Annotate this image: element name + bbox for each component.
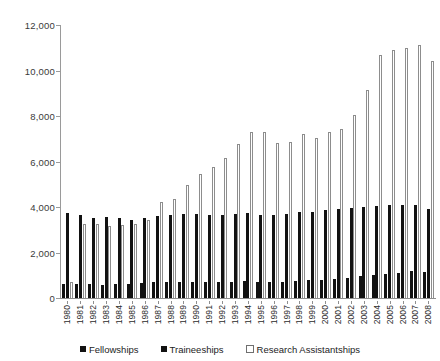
x-axis-tickmark <box>158 301 159 304</box>
x-axis-tick-label: 2005 <box>385 305 395 324</box>
x-axis-tickmark <box>338 301 339 304</box>
x-axis-tickmark <box>145 301 146 304</box>
bar-group <box>125 25 138 298</box>
bar-traineeships <box>298 212 301 298</box>
y-axis-tick-label: 8,000 <box>30 111 55 122</box>
bar-groups <box>61 25 435 298</box>
bar-research-assistantships <box>276 143 279 298</box>
bar-traineeships <box>324 210 327 298</box>
bar-fellowships <box>62 284 65 298</box>
bar-group <box>409 25 422 298</box>
bar-research-assistantships <box>134 224 137 298</box>
bar-traineeships <box>118 218 121 298</box>
bar-traineeships <box>221 215 224 298</box>
x-axis-tick-label: 1991 <box>204 305 214 324</box>
x-axis-label-cell: 2003 <box>357 301 370 341</box>
bar-traineeships <box>362 207 365 298</box>
bar-traineeships <box>414 205 417 298</box>
bar-research-assistantships <box>302 134 305 298</box>
y-axis-tick-label: 12,000 <box>25 20 55 31</box>
bar-group <box>293 25 306 298</box>
bar-fellowships <box>320 280 323 298</box>
x-axis-tick-label: 1980 <box>62 305 72 324</box>
x-axis-label-cell: 1985 <box>125 301 138 341</box>
x-axis-tick-label: 1989 <box>178 305 188 324</box>
bar-fellowships <box>410 271 413 298</box>
x-axis-tick-label: 2001 <box>333 305 343 324</box>
bar-fellowships <box>268 282 271 298</box>
bar-group <box>216 25 229 298</box>
bar-research-assistantships <box>160 202 163 298</box>
bar-traineeships <box>246 213 249 298</box>
bar-fellowships <box>204 282 207 298</box>
legend-item[interactable]: Fellowships <box>80 344 139 355</box>
x-axis-tick-label: 2004 <box>372 305 382 324</box>
x-axis-label-cell: 1981 <box>74 301 87 341</box>
bar-fellowships <box>294 281 297 298</box>
bar-research-assistantships <box>186 185 189 298</box>
bar-research-assistantships <box>224 158 227 298</box>
x-axis-tick-label: 1998 <box>294 305 304 324</box>
bar-traineeships <box>401 205 404 298</box>
x-axis-labels: 1980198119821983198419851986198719881989… <box>61 301 435 341</box>
bar-group <box>345 25 358 298</box>
x-axis-tickmark <box>428 301 429 304</box>
bar-traineeships <box>156 216 159 298</box>
x-axis-tickmark <box>299 301 300 304</box>
bar-fellowships <box>140 283 143 298</box>
x-axis-tickmark <box>235 301 236 304</box>
x-axis-tickmark <box>196 301 197 304</box>
bar-research-assistantships <box>353 115 356 298</box>
bar-group <box>319 25 332 298</box>
legend-item[interactable]: Research Assistantships <box>246 344 361 355</box>
x-axis-tickmark <box>415 301 416 304</box>
y-axis-tick-label: 0 <box>50 293 55 304</box>
bar-group <box>203 25 216 298</box>
bar-fellowships <box>307 280 310 298</box>
bar-traineeships <box>285 214 288 298</box>
x-axis-label-cell: 1986 <box>138 301 151 341</box>
open-square-icon <box>246 345 254 353</box>
bar-traineeships <box>130 220 133 298</box>
bar-group <box>422 25 435 298</box>
bar-traineeships <box>169 215 172 298</box>
bar-research-assistantships <box>366 90 369 298</box>
bar-group <box>61 25 74 298</box>
bar-fellowships <box>152 282 155 298</box>
x-axis-label-cell: 1990 <box>190 301 203 341</box>
bar-traineeships <box>105 217 108 298</box>
x-axis-label-cell: 1980 <box>61 301 74 341</box>
bar-research-assistantships <box>147 220 150 298</box>
bar-fellowships <box>384 274 387 298</box>
x-axis-label-cell: 1998 <box>293 301 306 341</box>
bar-fellowships <box>114 284 117 298</box>
bar-fellowships <box>127 284 130 298</box>
bar-traineeships <box>92 218 95 298</box>
legend-item[interactable]: Traineeships <box>161 344 224 355</box>
x-axis-tick-label: 1986 <box>140 305 150 324</box>
chart-legend: FellowshipsTraineeshipsResearch Assistan… <box>0 341 440 357</box>
x-axis-tick-label: 2000 <box>320 305 330 324</box>
x-axis-label-cell: 2004 <box>370 301 383 341</box>
x-axis-tick-label: 2008 <box>423 305 433 324</box>
bar-group <box>100 25 113 298</box>
bar-traineeships <box>272 215 275 298</box>
bar-research-assistantships <box>405 48 408 298</box>
bar-group <box>177 25 190 298</box>
bar-group <box>241 25 254 298</box>
x-axis-label-cell: 1983 <box>100 301 113 341</box>
bar-group <box>74 25 87 298</box>
x-axis-label-cell: 1996 <box>267 301 280 341</box>
x-axis-tickmark <box>325 301 326 304</box>
y-axis-labels: 02,0004,0006,0008,00010,00012,000 <box>0 0 55 361</box>
bar-traineeships <box>259 215 262 298</box>
x-axis-label-cell: 1999 <box>306 301 319 341</box>
x-axis-tickmark <box>67 301 68 304</box>
filled-square-icon <box>80 346 86 352</box>
x-axis-label-cell: 1995 <box>254 301 267 341</box>
x-axis-tickmark <box>209 301 210 304</box>
bar-research-assistantships <box>83 224 86 298</box>
bar-research-assistantships <box>96 224 99 298</box>
x-axis-label-cell: 1987 <box>151 301 164 341</box>
x-axis-tickmark <box>390 301 391 304</box>
